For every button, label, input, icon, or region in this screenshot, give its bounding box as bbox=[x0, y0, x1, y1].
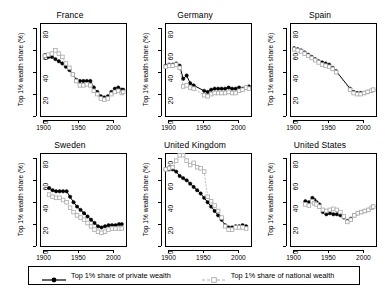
panel-germany: GermanyTop 1% wealth share (%)0204060801… bbox=[133, 10, 257, 138]
data-point bbox=[362, 91, 366, 95]
panel-united-kingdom: United KingdomTop 1% wealth share (%)020… bbox=[133, 140, 257, 268]
data-point bbox=[85, 82, 89, 86]
data-point bbox=[71, 73, 75, 77]
data-point bbox=[68, 66, 72, 70]
data-point bbox=[367, 208, 371, 212]
data-point bbox=[363, 209, 367, 213]
data-point bbox=[65, 200, 69, 204]
data-point bbox=[234, 87, 237, 90]
data-point bbox=[299, 50, 303, 54]
data-point bbox=[188, 86, 192, 90]
panel-spain: SpainTop 1% wealth share (%)020406080190… bbox=[258, 10, 382, 138]
data-point bbox=[216, 91, 220, 95]
data-point bbox=[321, 208, 325, 212]
data-point bbox=[241, 88, 245, 92]
data-point bbox=[216, 214, 219, 217]
data-point bbox=[320, 63, 324, 67]
data-point bbox=[206, 90, 209, 93]
plot-area bbox=[8, 140, 132, 268]
data-point bbox=[93, 221, 96, 224]
data-point bbox=[61, 55, 65, 59]
data-point bbox=[355, 92, 359, 96]
data-point bbox=[107, 228, 111, 232]
plot-area bbox=[258, 140, 382, 268]
data-point bbox=[51, 189, 54, 192]
data-point bbox=[43, 54, 47, 58]
data-point bbox=[100, 231, 104, 235]
data-point bbox=[103, 230, 107, 234]
data-point bbox=[327, 65, 331, 69]
data-point bbox=[206, 195, 210, 199]
data-point bbox=[117, 89, 121, 93]
data-point bbox=[110, 227, 114, 231]
data-point bbox=[120, 227, 124, 231]
data-point bbox=[174, 159, 178, 163]
data-point bbox=[61, 198, 65, 202]
data-point bbox=[54, 196, 58, 200]
data-point bbox=[307, 204, 311, 208]
data-point bbox=[188, 81, 191, 84]
data-point bbox=[334, 70, 338, 74]
data-point bbox=[292, 47, 296, 51]
panel-united-states: United StatesTop 1% wealth share (%)0204… bbox=[258, 140, 382, 268]
plot-area bbox=[133, 10, 257, 138]
data-point bbox=[227, 228, 231, 232]
data-point bbox=[317, 61, 321, 65]
data-point bbox=[216, 87, 219, 90]
data-point bbox=[78, 79, 81, 82]
data-point bbox=[213, 204, 217, 208]
data-point bbox=[195, 165, 199, 169]
data-point bbox=[213, 87, 216, 90]
data-point bbox=[185, 74, 188, 77]
data-point bbox=[171, 165, 175, 169]
data-point bbox=[206, 201, 209, 204]
data-point bbox=[79, 208, 82, 211]
data-point bbox=[209, 88, 212, 91]
data-point bbox=[202, 170, 206, 174]
data-point bbox=[47, 186, 50, 189]
data-point bbox=[206, 95, 210, 99]
data-point bbox=[185, 159, 189, 163]
data-point bbox=[181, 176, 184, 179]
data-point bbox=[223, 87, 226, 90]
data-point bbox=[230, 87, 233, 90]
data-point bbox=[61, 62, 64, 65]
data-point bbox=[192, 185, 195, 188]
data-point bbox=[332, 207, 336, 211]
data-point bbox=[89, 225, 93, 229]
data-point bbox=[328, 208, 332, 212]
data-point bbox=[93, 228, 97, 232]
data-point bbox=[47, 53, 51, 57]
data-point bbox=[244, 227, 248, 231]
data-point bbox=[318, 205, 322, 209]
data-point bbox=[89, 79, 92, 82]
data-point bbox=[227, 86, 230, 89]
series-line bbox=[166, 155, 246, 229]
data-point bbox=[82, 218, 86, 222]
data-point bbox=[164, 168, 168, 172]
data-point bbox=[230, 228, 234, 232]
plot-area bbox=[258, 10, 382, 138]
data-point bbox=[188, 182, 191, 185]
data-point bbox=[195, 189, 198, 192]
data-point bbox=[96, 92, 100, 96]
filled-circle-icon bbox=[41, 271, 67, 281]
legend-label: Top 1% share of national wealth bbox=[231, 271, 334, 280]
data-point bbox=[213, 209, 216, 212]
data-point bbox=[324, 64, 328, 68]
data-point bbox=[247, 87, 251, 91]
data-point bbox=[185, 179, 188, 182]
data-point bbox=[113, 90, 117, 94]
data-point bbox=[68, 206, 72, 210]
data-point bbox=[64, 62, 68, 66]
data-point bbox=[303, 52, 307, 56]
data-point bbox=[114, 227, 118, 231]
data-point bbox=[353, 214, 357, 218]
data-point bbox=[174, 170, 177, 173]
data-point bbox=[89, 84, 93, 88]
data-point bbox=[65, 190, 68, 193]
data-point bbox=[75, 205, 78, 208]
data-point bbox=[47, 193, 51, 197]
data-point bbox=[234, 91, 238, 95]
data-point bbox=[78, 84, 82, 88]
